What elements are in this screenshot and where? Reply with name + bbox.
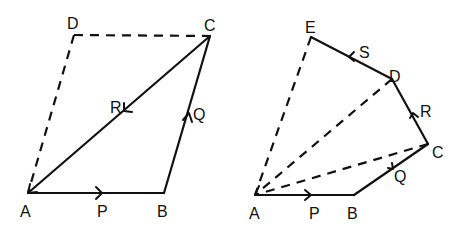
point-label-a: A xyxy=(20,203,31,220)
vector-label-r: R xyxy=(420,103,432,120)
point-label-d: D xyxy=(389,68,401,85)
right-figure: A B C D E P Q R S xyxy=(249,19,444,222)
edge-dc-dashed xyxy=(74,35,210,36)
point-label-b: B xyxy=(347,205,358,222)
edge-da-dashed xyxy=(28,35,74,193)
vector-label-r: R xyxy=(110,99,122,116)
arrow-s-icon xyxy=(349,52,354,61)
point-label-c: C xyxy=(204,17,216,34)
arrow-q-icon xyxy=(388,163,393,169)
point-label-d: D xyxy=(67,15,79,32)
left-figure: A B C D P Q R xyxy=(20,15,216,220)
vector-label-s: S xyxy=(359,44,370,61)
point-label-c: C xyxy=(432,144,444,161)
edge-da-dashed xyxy=(255,79,392,195)
vector-label-p: P xyxy=(97,203,108,220)
vector-label-q: Q xyxy=(394,168,406,185)
vector-diagrams: A B C D P Q R A B C D E P Q R S xyxy=(0,0,463,229)
vector-label-q: Q xyxy=(193,106,205,123)
vector-label-p: P xyxy=(309,205,320,222)
point-label-e: E xyxy=(305,19,316,36)
edge-ea-dashed xyxy=(255,37,311,195)
point-label-b: B xyxy=(157,203,168,220)
point-label-a: A xyxy=(249,205,260,222)
